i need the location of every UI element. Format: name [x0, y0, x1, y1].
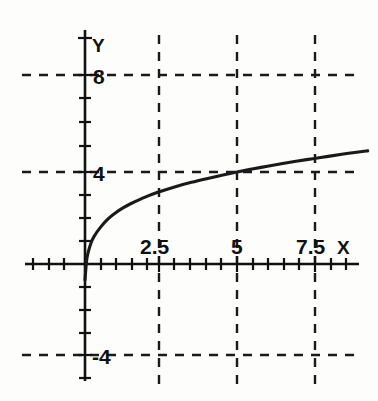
x-tick-label-2p5: 2.5	[140, 235, 170, 258]
x-axis-label: X	[337, 237, 350, 258]
graph-canvas: Y 8 4 -4 2.5 5 7.5 X	[0, 0, 378, 401]
curve-path	[85, 151, 368, 280]
x-tick-label-7p5: 7.5	[296, 235, 326, 258]
axes	[25, 30, 359, 381]
gridlines	[22, 35, 359, 392]
curve-series	[85, 151, 368, 280]
coordinate-plot: Y 8 4 -4 2.5 5 7.5 X	[0, 0, 378, 401]
y-tick-label-8: 8	[93, 65, 105, 88]
x-tick-label-5: 5	[231, 235, 243, 258]
y-tick-label-minus-4: -4	[92, 345, 111, 368]
y-tick-label-4: 4	[93, 162, 105, 185]
y-axis-label: Y	[92, 35, 105, 56]
